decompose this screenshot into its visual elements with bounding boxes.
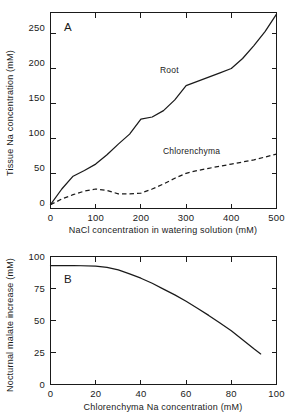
panel-b-y-tick-labels: 0 25 50 75 100	[29, 251, 45, 390]
panel-a-x-tick-label-300: 300	[178, 212, 194, 223]
panel-a-y-tick-label-100: 100	[29, 127, 45, 138]
panel-b-x-tick-labels: 0 20 40 60 80 100	[48, 388, 285, 399]
panel-a-x-tick-label-400: 400	[223, 212, 239, 223]
panel-b-x-tick-label-80: 80	[226, 388, 237, 399]
panel-b-x-tick-label-0: 0	[48, 388, 53, 399]
panel-b-y-ticks	[51, 257, 56, 385]
panel-b-x-tick-label-100: 100	[268, 388, 284, 399]
panel-a-y-tick-labels: 0 50 100 150 200 250	[29, 22, 45, 208]
panel-a-series-label-root: Root	[160, 65, 179, 75]
panel-b: Nocturnal malate increase (mM) 0 25 50 7…	[5, 251, 285, 413]
panel-b-x-tick-label-60: 60	[181, 388, 192, 399]
panel-b-y-tick-label-25: 25	[34, 347, 45, 358]
panel-a-y-tick-label-200: 200	[29, 57, 45, 68]
panel-a-x-tick-label-500: 500	[268, 212, 284, 223]
figure-container: Tissue Na concentration (mM) 0 50 100 15…	[0, 0, 289, 418]
panel-b-plot-frame	[51, 257, 277, 385]
panel-a-y-tick-label-0: 0	[40, 197, 45, 208]
panel-b-x-axis-title: Chlorenchyma Na concentration (mM)	[84, 402, 243, 412]
panel-b-y-tick-label-0: 0	[40, 379, 45, 390]
panel-a: Tissue Na concentration (mM) 0 50 100 15…	[5, 13, 285, 236]
panel-b-y-tick-label-75: 75	[34, 283, 45, 294]
panel-b-x-ticks	[51, 380, 277, 385]
panel-a-y-tick-label-50: 50	[34, 162, 45, 173]
panel-b-x-ticks-top	[96, 257, 232, 262]
panel-a-x-axis-title: NaCl concentration in watering solution …	[69, 225, 257, 235]
panel-a-series-label-chlorenchyma: Chlorenchyma	[163, 146, 220, 156]
panel-a-x-tick-labels: 0 100 200 300 400 500	[48, 212, 285, 223]
panel-a-y-axis-title: Tissue Na concentration (mM)	[5, 50, 15, 176]
panel-a-x-tick-label-0: 0	[48, 212, 53, 223]
panel-a-x-tick-label-200: 200	[133, 212, 149, 223]
panel-b-x-tick-label-20: 20	[90, 388, 101, 399]
panel-a-x-ticks	[51, 204, 277, 209]
panel-a-letter: A	[64, 21, 72, 33]
panel-a-y-ticks	[51, 34, 56, 209]
panel-a-series-chlorenchyma-curve	[51, 154, 277, 205]
panel-a-series-root-curve	[51, 14, 277, 205]
panel-a-y-tick-label-250: 250	[29, 22, 45, 33]
panel-b-y-axis-title: Nocturnal malate increase (mM)	[5, 258, 15, 392]
panel-b-letter: B	[64, 273, 72, 285]
panel-a-y-ticks-right	[272, 34, 277, 209]
panel-b-y-ticks-right	[272, 289, 277, 385]
figure-svg: Tissue Na concentration (mM) 0 50 100 15…	[0, 0, 289, 418]
panel-b-y-tick-label-100: 100	[29, 251, 45, 262]
panel-b-y-tick-label-50: 50	[34, 315, 45, 326]
panel-b-series-malate-curve	[51, 266, 261, 354]
panel-a-x-ticks-top	[96, 13, 232, 18]
panel-a-x-tick-label-100: 100	[87, 212, 103, 223]
panel-a-y-tick-label-150: 150	[29, 92, 45, 103]
panel-b-x-tick-label-40: 40	[135, 388, 146, 399]
